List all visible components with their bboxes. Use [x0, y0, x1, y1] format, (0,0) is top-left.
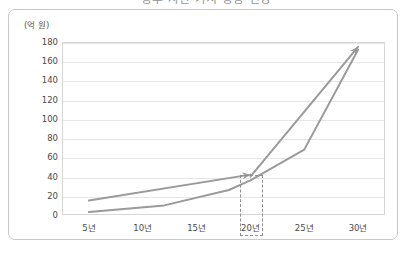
y-tick-label: 180 [42, 37, 58, 47]
chart-title-clipped: 향후 자산 가치 상승 전망 [0, 0, 412, 8]
x-tick-label: 30년 [349, 221, 368, 233]
y-tick-label: 20 [47, 191, 58, 201]
gridline [63, 139, 384, 140]
y-tick-label: 60 [47, 152, 58, 162]
gridline [63, 197, 384, 198]
gridline [63, 101, 384, 102]
x-axis-ticks: 5년10년15년20년25년30년 [0, 221, 412, 235]
y-tick-label: 120 [42, 95, 58, 105]
y-tick-label: 100 [42, 114, 58, 124]
page-title: 향후 자산 가치 상승 전망 [0, 0, 412, 6]
x-tick-label: 5년 [82, 221, 95, 233]
gridline [63, 158, 384, 159]
gridline [63, 62, 384, 63]
y-tick-label: 160 [42, 56, 58, 66]
y-tick-label: 0 [53, 210, 58, 220]
y-tick-label: 40 [47, 172, 58, 182]
y-axis-unit-label: (억 원) [24, 18, 49, 30]
gridline [63, 43, 384, 44]
gridline [63, 120, 384, 121]
y-axis-ticks: 180160140120100806040200 [18, 42, 58, 215]
x-tick-label: 25년 [295, 221, 314, 233]
highlight-dashed-box [240, 175, 264, 237]
gridline [63, 81, 384, 82]
y-tick-label: 80 [47, 133, 58, 143]
gridline [63, 178, 384, 179]
chart-screenshot: 향후 자산 가치 상승 전망 (억 원) 1801601401201008060… [0, 0, 412, 257]
y-tick-label: 140 [42, 75, 58, 85]
x-tick-label: 15년 [187, 221, 206, 233]
x-tick-label: 10년 [133, 221, 152, 233]
plot-area [62, 42, 385, 215]
